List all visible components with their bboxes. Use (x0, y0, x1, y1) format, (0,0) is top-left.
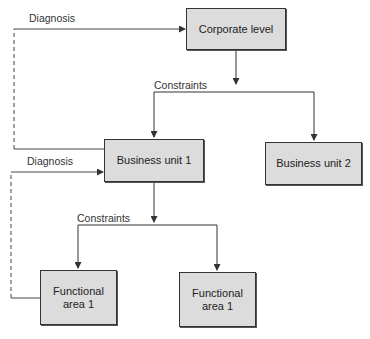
node-functional-area-left: Functional area 1 (40, 270, 117, 325)
constraints-corporate (154, 50, 314, 140)
node-label: Business unit 2 (276, 157, 351, 170)
diagnosis-label-mid: Diagnosis (27, 155, 73, 167)
node-functional-area-right: Functional area 1 (179, 272, 256, 327)
diagnosis-label-top: Diagnosis (29, 12, 75, 24)
node-label: Corporate level (199, 23, 274, 36)
node-label: Functional area 1 (53, 285, 104, 311)
node-business-unit-1: Business unit 1 (104, 139, 204, 182)
constraints-label-mid: Constraints (77, 212, 130, 224)
node-business-unit-2: Business unit 2 (265, 142, 362, 185)
node-corporate-level: Corporate level (186, 8, 286, 50)
constraints-business-unit (78, 182, 217, 270)
constraints-label-top: Constraints (154, 79, 207, 91)
node-label: Business unit 1 (117, 154, 192, 167)
node-label: Functional area 1 (192, 287, 243, 313)
